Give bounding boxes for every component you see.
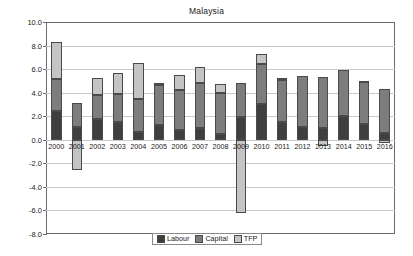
x-axis-tick-label: 2014	[333, 142, 354, 151]
x-axis-tick-label: 2016	[374, 142, 395, 151]
y-axis-tick-label: -6.0	[4, 206, 42, 215]
legend-item[interactable]: Capital	[195, 235, 227, 243]
y-axis-tick-label: 0.0	[4, 135, 42, 144]
y-axis-tick-label: 2.0	[4, 112, 42, 121]
y-axis-tick-label: -2.0	[4, 159, 42, 168]
x-axis-tick-label: 2004	[128, 142, 149, 151]
chart-legend: LabourCapitalTFP	[152, 233, 262, 245]
legend-label: TFP	[244, 235, 258, 242]
x-axis-tick-label: 2010	[251, 142, 272, 151]
legend-item[interactable]: Labour	[157, 235, 189, 243]
x-axis-tick-label: 2000	[46, 142, 67, 151]
y-axis-tick-mark	[43, 234, 47, 235]
y-axis-tick-label: 8.0	[4, 41, 42, 50]
x-axis-tick-label: 2003	[108, 142, 129, 151]
x-axis-tick-label: 2008	[210, 142, 231, 151]
y-axis-tick-label: -4.0	[4, 182, 42, 191]
x-axis-tick-label: 2011	[272, 142, 293, 151]
legend-swatch-icon	[157, 235, 165, 243]
x-axis-tick-label: 2015	[354, 142, 375, 151]
y-axis-tick-label: -8.0	[4, 230, 42, 239]
x-axis-tick-label: 2005	[149, 142, 170, 151]
legend-label: Capital	[205, 235, 227, 242]
chart-container: Malaysia 10.08.06.04.02.00.0-2.0-4.0-6.0…	[0, 0, 413, 256]
x-axis-tick-label: 2007	[190, 142, 211, 151]
y-axis-tick-label: 6.0	[4, 65, 42, 74]
x-axis-tick-label: 2009	[231, 142, 252, 151]
y-axis-tick-label: 10.0	[4, 18, 42, 27]
x-axis-tick-label: 2012	[292, 142, 313, 151]
legend-item[interactable]: TFP	[234, 235, 258, 243]
legend-label: Labour	[167, 235, 189, 242]
x-axis-tick-label: 2013	[313, 142, 334, 151]
chart-title: Malaysia	[0, 6, 413, 16]
legend-swatch-icon	[234, 235, 242, 243]
x-axis-tick-label: 2002	[87, 142, 108, 151]
y-axis-tick-label: 4.0	[4, 88, 42, 97]
x-axis-tick-label: 2006	[169, 142, 190, 151]
x-axis: 2000200120022003200420052006200720082009…	[46, 22, 395, 234]
x-axis-tick-label: 2001	[67, 142, 88, 151]
legend-swatch-icon	[195, 235, 203, 243]
